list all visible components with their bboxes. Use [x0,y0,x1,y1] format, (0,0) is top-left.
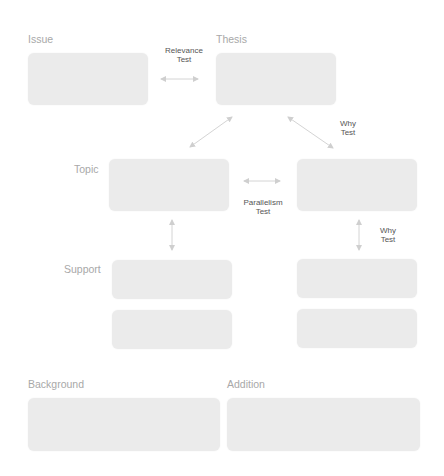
relevance-test-line1: Relevance [158,46,210,55]
relevance-test-label: Relevance Test [158,46,210,64]
thesis-label: Thesis [216,33,247,45]
addition-box[interactable] [227,398,420,451]
why-test-right-label: Why Test [373,226,403,244]
background-label: Background [28,378,84,390]
thesis-right-arrow [288,117,333,148]
thesis-topic-arrow [190,117,232,147]
parallelism-test-line1: Parallelism [238,198,288,207]
topic-box-right[interactable] [297,159,417,211]
parallelism-test-line2: Test [238,207,288,216]
support-label: Support [64,263,101,275]
support-box-right-1[interactable] [297,259,417,298]
issue-label: Issue [28,33,53,45]
addition-label: Addition [227,378,265,390]
topic-label: Topic [74,163,99,175]
topic-box-left[interactable] [109,159,229,211]
thesis-box[interactable] [216,53,336,105]
why-test-right-line2: Test [373,235,403,244]
relevance-test-line2: Test [158,55,210,64]
why-test-top-label: Why Test [333,119,363,137]
support-box-right-2[interactable] [297,309,417,348]
why-test-top-line2: Test [333,128,363,137]
why-test-right-line1: Why [373,226,403,235]
why-test-top-line1: Why [333,119,363,128]
background-box[interactable] [28,398,220,451]
support-box-left-1[interactable] [112,260,232,299]
issue-box[interactable] [28,53,148,105]
support-box-left-2[interactable] [112,310,232,349]
parallelism-test-label: Parallelism Test [238,198,288,216]
